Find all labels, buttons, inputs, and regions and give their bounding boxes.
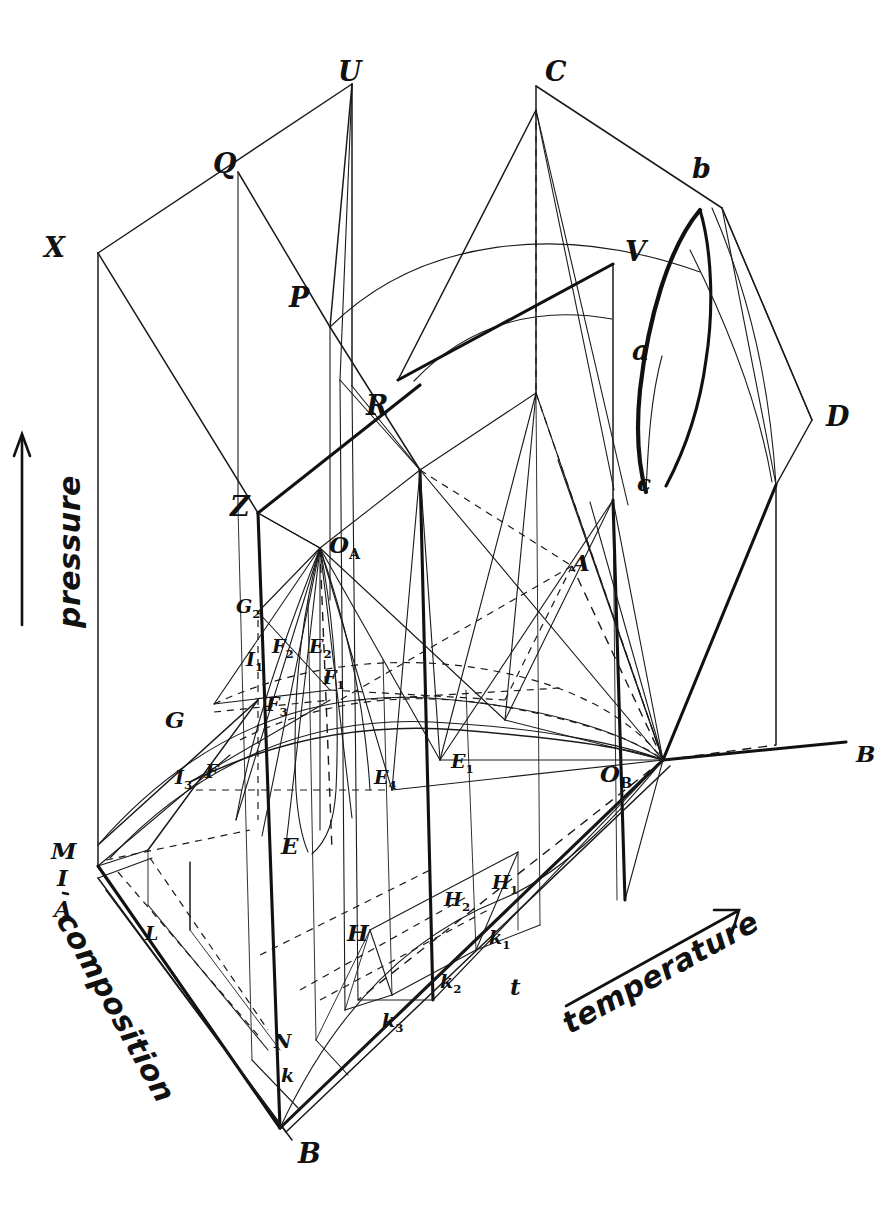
vertex-label-F: F — [205, 762, 219, 781]
vertex-label-G: G — [165, 708, 185, 731]
f-3-sub: 3 — [280, 705, 288, 719]
i-3-sub: 3 — [184, 778, 192, 792]
e-4-sub: 4 — [388, 778, 396, 792]
vertex-label-F-1: F1 — [323, 668, 345, 692]
e-1-base: E — [451, 750, 465, 772]
vertex-label-A-upper: A — [572, 551, 590, 574]
phase-diagram-figure: X Q U C P V b a c D R Z A B G E H N k B … — [0, 0, 890, 1228]
h-2-base: H — [444, 888, 462, 910]
k-3-sub: 3 — [395, 1021, 403, 1035]
o-a-base: O — [329, 531, 349, 558]
upper-frame — [98, 84, 420, 866]
vertex-label-B-right: B — [856, 742, 875, 765]
vertex-label-G-2: G2 — [236, 597, 260, 621]
vertex-label-Z: Z — [230, 493, 250, 520]
upper-right-frame — [398, 86, 812, 505]
vertex-label-c: c — [637, 471, 651, 494]
vertex-label-k-1: k1 — [489, 928, 510, 952]
g-2-base: G — [236, 595, 252, 617]
o-a-sub: A — [349, 546, 360, 562]
vertex-label-E: E — [281, 834, 299, 857]
e-2-sub: 2 — [323, 647, 331, 661]
vertex-label-k: k — [281, 1066, 294, 1085]
vertex-label-t: t — [510, 975, 521, 998]
vertex-label-O-A: OA — [329, 533, 360, 561]
o-b-sub: B — [620, 775, 632, 791]
pressure-axis-label: pressure — [52, 475, 87, 628]
e-1-sub: 1 — [465, 762, 473, 776]
i-3-base: I — [175, 766, 184, 788]
vertex-label-C: C — [545, 58, 567, 85]
k-2-sub: 2 — [453, 982, 461, 996]
vertex-label-a: a — [632, 337, 650, 364]
f-3-base: F — [266, 693, 280, 715]
h-1-base: H — [492, 871, 510, 893]
vertex-label-E-4: E4 — [374, 768, 397, 792]
vertex-label-I-left: I — [57, 866, 68, 889]
lower-left-slab — [98, 700, 292, 1140]
k-1-base: k — [489, 926, 502, 948]
k-1-sub: 1 — [502, 938, 510, 952]
k-2-base: k — [440, 970, 453, 992]
e-2-base: E — [309, 635, 323, 657]
vertex-label-L: L — [145, 924, 158, 943]
vertex-label-U: U — [338, 58, 362, 85]
pressure-axis-arrow — [14, 434, 30, 625]
e-4-base: E — [374, 766, 388, 788]
vertex-label-B-bottom: B — [298, 1140, 321, 1167]
vertex-label-F-3: F3 — [266, 695, 288, 719]
vertex-label-k-3: k3 — [382, 1011, 403, 1035]
vertex-label-V: V — [625, 238, 646, 265]
vertex-label-R: R — [366, 392, 388, 419]
vertex-label-H-2: H2 — [444, 890, 470, 914]
vertex-label-X: X — [44, 234, 65, 261]
h-2-sub: 2 — [462, 900, 470, 914]
vertex-label-P: P — [289, 284, 309, 311]
vertex-label-H: H — [347, 921, 369, 944]
vertex-label-M: M — [51, 839, 76, 862]
g-2-sub: 2 — [252, 607, 260, 621]
vertex-label-F-2: F2 — [272, 637, 294, 661]
vertex-label-I-1: I1 — [246, 650, 263, 674]
vertex-label-O-B: OB — [600, 762, 632, 790]
vertex-label-I-3: I3 — [175, 768, 192, 792]
vertex-label-D: D — [826, 403, 849, 430]
f-1-sub: 1 — [337, 678, 345, 692]
o-b-base: O — [600, 760, 620, 787]
f-base: F — [205, 760, 219, 782]
vertex-label-H-1: H1 — [492, 873, 518, 897]
vertex-label-N: N — [274, 1032, 291, 1051]
f-2-base: F — [272, 635, 286, 657]
vertex-label-b: b — [692, 155, 711, 182]
right-envelope — [663, 208, 812, 760]
vertex-label-E-2: E2 — [309, 637, 332, 661]
vertex-label-k-2: k2 — [440, 972, 461, 996]
vertex-label-Q: Q — [213, 150, 237, 177]
i-1-sub: 1 — [255, 660, 263, 674]
h-1-sub: 1 — [510, 883, 518, 897]
i-1-base: I — [246, 648, 255, 670]
f-1-base: F — [323, 666, 337, 688]
composition-axis-arrow — [63, 893, 68, 894]
k-3-base: k — [382, 1009, 395, 1031]
f-2-sub: 2 — [286, 647, 294, 661]
vertex-label-E-1: E1 — [451, 752, 474, 776]
